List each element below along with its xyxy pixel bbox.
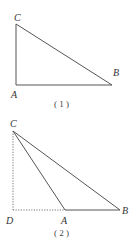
point-label-b: B: [113, 67, 119, 78]
diagram-canvas: C A B ( 1 ) C D A B ( 2 ): [0, 0, 134, 252]
point-label-c: C: [14, 12, 21, 23]
point-label-b: B: [122, 205, 128, 216]
segment-ca: [13, 131, 65, 210]
segment-cb: [13, 131, 120, 210]
point-label-a: A: [60, 215, 68, 226]
figure-caption: ( 1 ): [54, 99, 69, 109]
segment-cb: [16, 24, 112, 85]
figure-1-right-triangle: C A B ( 1 ): [10, 12, 119, 109]
figure-caption: ( 2 ): [54, 228, 69, 238]
point-label-d: D: [5, 215, 14, 226]
point-label-a: A: [10, 89, 18, 100]
point-label-c: C: [10, 118, 17, 129]
figure-2-obtuse-triangle-with-altitude: C D A B ( 2 ): [5, 118, 128, 238]
